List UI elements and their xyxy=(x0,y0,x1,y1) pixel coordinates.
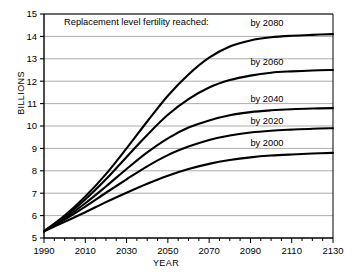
svg-text:12: 12 xyxy=(26,76,37,87)
x-axis-tick-labels: 19902010203020502070209021102130 xyxy=(33,245,343,256)
svg-text:2030: 2030 xyxy=(116,245,137,256)
series-label-by-2000: by 2000 xyxy=(250,138,283,148)
svg-text:1990: 1990 xyxy=(33,245,54,256)
y-axis-tick-labels: 56789101112131415 xyxy=(26,8,37,243)
svg-text:2050: 2050 xyxy=(157,245,178,256)
svg-text:5: 5 xyxy=(32,232,37,243)
svg-text:6: 6 xyxy=(32,210,37,221)
chart-title: Replacement level fertility reached: xyxy=(64,17,209,27)
svg-text:14: 14 xyxy=(26,31,37,42)
svg-text:2010: 2010 xyxy=(75,245,96,256)
svg-text:9: 9 xyxy=(32,143,37,154)
svg-text:13: 13 xyxy=(26,53,37,64)
series-label-by-2080: by 2080 xyxy=(250,18,283,28)
series-label-by-2020: by 2020 xyxy=(250,116,283,126)
svg-text:10: 10 xyxy=(26,120,37,131)
series-label-by-2060: by 2060 xyxy=(250,57,283,67)
x-axis-ticks xyxy=(44,238,333,243)
svg-text:2090: 2090 xyxy=(240,245,261,256)
svg-text:15: 15 xyxy=(26,8,37,19)
svg-text:2130: 2130 xyxy=(322,245,343,256)
svg-text:11: 11 xyxy=(27,98,37,109)
svg-text:8: 8 xyxy=(32,165,37,176)
series-curves xyxy=(44,34,333,231)
chart-canvas: 56789101112131415 1990201020302050207020… xyxy=(0,0,354,272)
svg-text:7: 7 xyxy=(32,188,37,199)
gridlines xyxy=(44,14,333,216)
series-label-by-2040: by 2040 xyxy=(250,94,283,104)
x-axis-label: YEAR xyxy=(153,258,179,268)
svg-text:2110: 2110 xyxy=(281,245,301,256)
svg-text:2070: 2070 xyxy=(199,245,220,256)
population-projection-chart: BILLIONS 56789101112131415 1990201020302… xyxy=(0,0,354,272)
